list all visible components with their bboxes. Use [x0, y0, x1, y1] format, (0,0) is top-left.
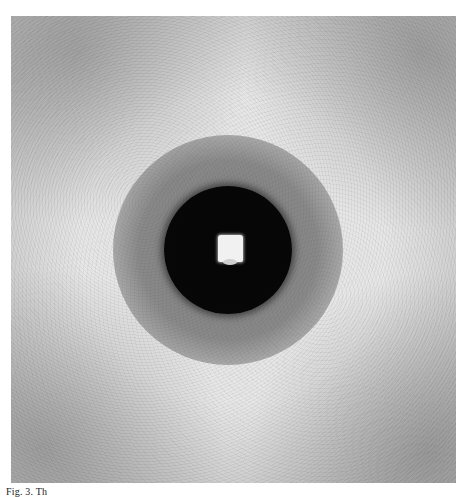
diffraction-photograph — [11, 16, 456, 483]
beam-stop-shadow — [223, 259, 237, 265]
beam-stop — [218, 235, 243, 262]
figure-caption: Fig. 3. Th — [6, 486, 47, 497]
